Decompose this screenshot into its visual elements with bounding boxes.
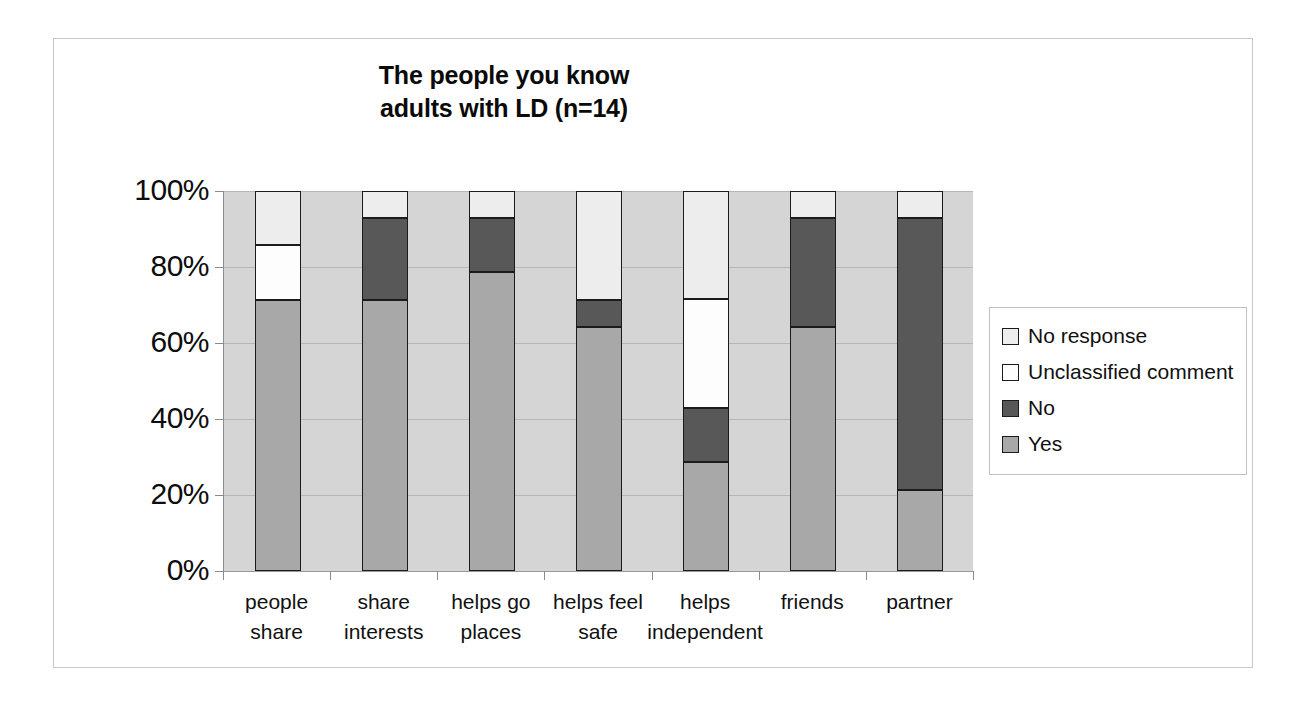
bar-group — [653, 191, 760, 571]
bar-segment[interactable] — [683, 462, 729, 571]
stacked-bar[interactable] — [897, 191, 943, 571]
y-axis-tick-label: 100% — [59, 173, 209, 207]
chart-title-line-1: The people you know — [54, 59, 954, 92]
x-axis-tick-mark — [437, 571, 438, 580]
bar-segment[interactable] — [362, 218, 408, 299]
legend-label: Unclassified comment — [1028, 360, 1233, 384]
bar-segment[interactable] — [897, 218, 943, 489]
chart-legend: No responseUnclassified commentNoYes — [989, 307, 1247, 475]
bar-segment[interactable] — [469, 218, 515, 272]
x-axis-tick-mark — [544, 571, 545, 580]
y-axis-tick-label: 60% — [59, 325, 209, 359]
y-axis-tick-mark — [215, 267, 224, 268]
bar-segment[interactable] — [897, 490, 943, 571]
bar-segment[interactable] — [790, 218, 836, 327]
legend-swatch-icon — [1002, 328, 1019, 345]
bar-segment[interactable] — [683, 408, 729, 462]
bar-segment[interactable] — [790, 191, 836, 218]
legend-item[interactable]: No response — [1002, 318, 1234, 354]
plot-area — [223, 191, 973, 571]
bar-segment[interactable] — [576, 191, 622, 300]
y-axis-tick-mark — [215, 495, 224, 496]
y-axis-tick-mark — [215, 343, 224, 344]
x-axis-tick-mark — [973, 571, 974, 580]
legend-item[interactable]: No — [1002, 390, 1234, 426]
bar-segment[interactable] — [790, 327, 836, 571]
x-axis-category-line: partner — [854, 587, 985, 617]
bar-group — [760, 191, 867, 571]
y-axis-tick-mark — [215, 191, 224, 192]
legend-item[interactable]: Unclassified comment — [1002, 354, 1234, 390]
legend-swatch-icon — [1002, 400, 1019, 417]
bar-segment[interactable] — [683, 191, 729, 300]
chart-title-line-2: adults with LD (n=14) — [54, 92, 954, 125]
bar-segment[interactable] — [683, 299, 729, 408]
y-axis-tick-label: 40% — [59, 401, 209, 435]
y-axis-tick-label: 0% — [59, 553, 209, 587]
stacked-bar[interactable] — [255, 191, 301, 571]
x-axis-tick-mark — [223, 571, 224, 580]
stacked-bar[interactable] — [362, 191, 408, 571]
bar-group — [545, 191, 652, 571]
x-axis-tick-mark — [866, 571, 867, 580]
y-axis-tick-mark — [215, 419, 224, 420]
y-axis: 0%20%40%60%80%100% — [54, 191, 209, 571]
legend-item[interactable]: Yes — [1002, 426, 1234, 462]
stacked-bar[interactable] — [469, 191, 515, 571]
x-axis-tick-mark — [759, 571, 760, 580]
y-axis-tick-label: 80% — [59, 249, 209, 283]
chart-title: The people you know adults with LD (n=14… — [54, 59, 954, 125]
bar-segment[interactable] — [255, 245, 301, 299]
legend-swatch-icon — [1002, 436, 1019, 453]
y-axis-tick-label: 20% — [59, 477, 209, 511]
stacked-bar[interactable] — [683, 191, 729, 571]
legend-label: No — [1028, 396, 1055, 420]
x-axis-tick-mark — [652, 571, 653, 580]
bar-segment[interactable] — [255, 191, 301, 245]
bar-segment[interactable] — [362, 191, 408, 218]
bar-group — [438, 191, 545, 571]
bar-group — [331, 191, 438, 571]
bar-segment[interactable] — [469, 272, 515, 571]
bar-group — [867, 191, 974, 571]
legend-label: Yes — [1028, 432, 1062, 456]
bar-segment[interactable] — [362, 300, 408, 571]
chart-figure-frame: The people you know adults with LD (n=14… — [53, 38, 1253, 668]
bar-segment[interactable] — [576, 327, 622, 571]
legend-swatch-icon — [1002, 364, 1019, 381]
stacked-bar[interactable] — [790, 191, 836, 571]
x-axis-category-label: partner — [854, 587, 985, 617]
stacked-bar[interactable] — [576, 191, 622, 571]
x-axis-category-line: independent — [640, 617, 771, 647]
bar-segment[interactable] — [469, 191, 515, 218]
x-axis-line — [223, 571, 974, 572]
bar-segment[interactable] — [255, 300, 301, 571]
x-axis-tick-mark — [330, 571, 331, 580]
bar-segment[interactable] — [897, 191, 943, 218]
bar-group — [224, 191, 331, 571]
bar-segment[interactable] — [576, 300, 622, 327]
legend-label: No response — [1028, 324, 1147, 348]
